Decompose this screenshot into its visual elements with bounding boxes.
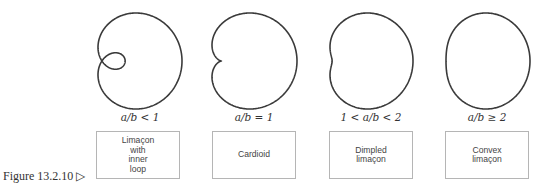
label-box-inner-loop: Limaçon with inner loop — [96, 131, 180, 179]
condition-dimpled: 1 < a/b < 2 — [321, 110, 421, 124]
condition-inner-loop: a/b < 1 — [90, 110, 190, 124]
condition-convex: a/b ≥ 2 — [437, 110, 537, 124]
label-box-dimpled: Dimpled limaçon — [329, 131, 413, 179]
figure-caption: Figure 13.2.10 ▷ — [3, 169, 85, 184]
label-dimpled: Dimpled limaçon — [355, 146, 387, 165]
convex-limacon-curve — [446, 13, 530, 109]
label-box-convex: Convex limaçon — [445, 131, 529, 179]
label-box-cardioid: Cardioid — [212, 131, 296, 179]
dimpled-limacon-curve — [330, 13, 413, 109]
label-inner-loop: Limaçon with inner loop — [122, 136, 154, 174]
label-convex: Convex limaçon — [472, 146, 502, 165]
condition-cardioid: a/b = 1 — [204, 110, 304, 124]
cardioid-curve — [212, 13, 297, 109]
label-cardioid: Cardioid — [238, 150, 270, 160]
limacon-inner-loop-curve — [98, 13, 182, 109]
